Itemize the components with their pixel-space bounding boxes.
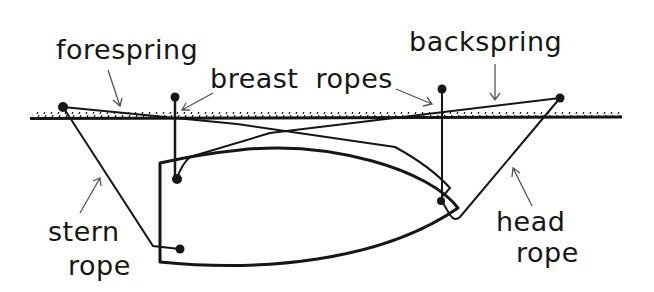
arrow-breast-aft: [182, 93, 213, 110]
arrow-breast-fwd: [396, 89, 432, 106]
cleat-aft-quarter: [172, 174, 182, 184]
cleat-stern: [176, 245, 185, 254]
label-forespring: forespring: [56, 36, 198, 63]
cleat-bow: [437, 197, 445, 205]
bollard-breast-aft: [171, 93, 180, 102]
label-backspring: backspring: [409, 28, 562, 55]
label-stern-rope: rope: [68, 252, 131, 279]
forespring-rope: [63, 107, 450, 196]
arrow-backspring: [490, 64, 500, 100]
bollard-left: [58, 102, 68, 112]
label-head-rope: rope: [516, 239, 579, 266]
label-breast-ropes: breast ropes: [210, 65, 393, 92]
boat-hull: [160, 148, 458, 265]
bollard-breast-fwd: [438, 85, 447, 94]
label-stern: stern: [48, 218, 120, 245]
arrow-head-rope: [512, 168, 532, 206]
bollard-right: [556, 94, 565, 103]
arrow-stern-rope: [80, 178, 101, 213]
label-head: head: [496, 208, 565, 235]
arrow-forespring: [108, 70, 122, 106]
